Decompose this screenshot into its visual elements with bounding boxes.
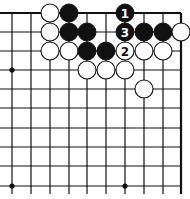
star-point [9, 183, 14, 188]
black-stone [78, 23, 96, 41]
white-stone: 2 [116, 42, 134, 60]
white-stone [154, 42, 172, 60]
star-point [9, 67, 14, 72]
black-stone [97, 42, 115, 60]
black-stone [78, 42, 96, 60]
black-stone: 1 [116, 4, 134, 22]
black-stone [60, 23, 78, 41]
white-stone [135, 42, 153, 60]
stones: 132 [41, 4, 190, 98]
black-stone [135, 23, 153, 41]
white-stone [78, 61, 96, 79]
black-stone: 3 [116, 23, 134, 41]
white-stone [41, 23, 59, 41]
go-board: 132 [0, 0, 190, 199]
white-stone [97, 61, 115, 79]
black-stone [60, 4, 78, 22]
move-number-label: 2 [121, 45, 129, 59]
white-stone [41, 42, 59, 60]
white-stone [116, 61, 134, 79]
move-number-label: 1 [121, 7, 129, 21]
black-stone [154, 23, 172, 41]
white-stone [60, 42, 78, 60]
star-point [122, 183, 127, 188]
white-stone [135, 80, 153, 98]
white-stone [172, 23, 190, 41]
move-number-label: 3 [121, 26, 129, 40]
white-stone [41, 4, 59, 22]
